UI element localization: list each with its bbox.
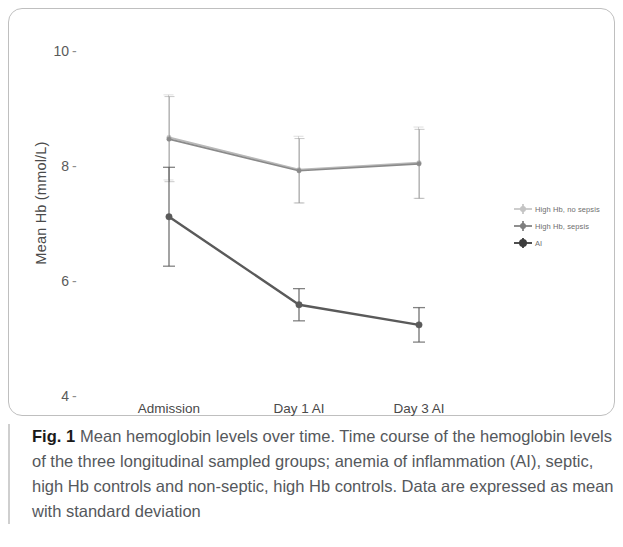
- errorbar-marker-light-icon: [514, 203, 532, 215]
- legend-label-high-hb-sepsis: High Hb, sepsis: [535, 222, 589, 231]
- figure-caption: Fig. 1Mean hemoglobin levels over time. …: [8, 424, 615, 524]
- figure-card: Mean Hb (mmol/L) 10 - 8 - 6 - 4 - Admiss…: [8, 8, 615, 416]
- legend-label-ai: AI: [535, 239, 542, 248]
- chart-legend: High Hb, no sepsis High Hb, sepsis AI: [514, 202, 614, 253]
- legend-label-high-hb-no-sepsis: High Hb, no sepsis: [535, 205, 600, 214]
- legend-item-ai: AI: [514, 236, 614, 250]
- legend-item-high-hb-no-sepsis: High Hb, no sepsis: [514, 202, 614, 216]
- errorbar-marker-dark-icon: [514, 237, 532, 249]
- legend-item-high-hb-sepsis: High Hb, sepsis: [514, 219, 614, 233]
- errorbar-marker-medium-icon: [514, 220, 532, 232]
- figure-caption-label: Fig. 1: [32, 427, 75, 445]
- figure-caption-text: Mean hemoglobin levels over time. Time c…: [32, 427, 614, 520]
